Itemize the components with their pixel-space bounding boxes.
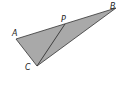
label-b: B xyxy=(110,2,116,11)
triangle-abc xyxy=(16,8,116,66)
label-a: A xyxy=(11,29,17,38)
triangle-diagram: A B C P xyxy=(0,0,122,85)
label-c: C xyxy=(25,63,31,72)
label-p: P xyxy=(61,15,66,24)
